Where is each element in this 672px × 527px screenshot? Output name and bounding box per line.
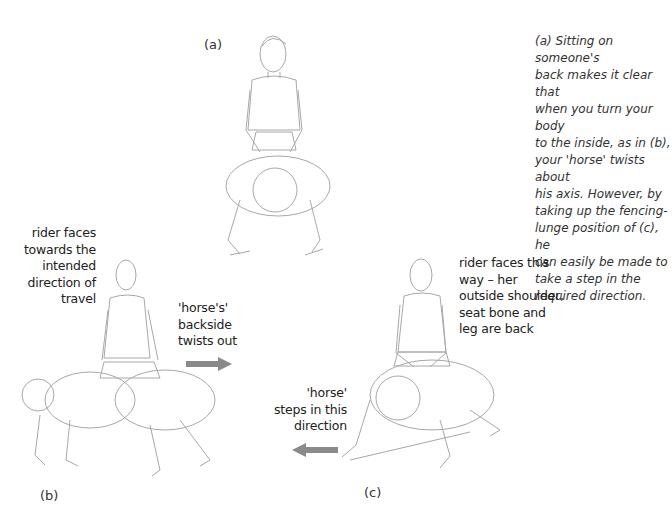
- annotation-c-rider: rider faces this way – her outside shoul…: [459, 255, 569, 338]
- annotation-line: outside shoulder,: [459, 288, 569, 305]
- annotation-line: steps in this: [230, 402, 347, 419]
- annotation-line: backside: [178, 317, 258, 334]
- arrow-right-icon: [186, 357, 236, 371]
- caption-line: lunge position of (c), he: [535, 220, 672, 254]
- annotation-c-horse: 'horse' steps in this direction: [230, 385, 347, 435]
- annotation-line: 'horse': [230, 385, 347, 402]
- caption-line: (a) Sitting on someone's: [535, 33, 672, 67]
- annotation-line: towards the: [0, 242, 96, 259]
- figure-a-sketch: [226, 36, 330, 255]
- caption-line: taking up the fencing-: [535, 203, 672, 220]
- caption-line: your 'horse' twists about: [535, 152, 672, 186]
- annotation-line: travel: [0, 291, 96, 308]
- panel-label-a: (a): [204, 37, 222, 52]
- arrow-left-icon: [290, 443, 340, 457]
- caption-line: to the inside, as in (b),: [535, 135, 672, 152]
- panel-label-c: (c): [364, 485, 381, 500]
- caption-line: his axis. However, by: [535, 186, 672, 203]
- caption-line: back makes it clear that: [535, 67, 672, 101]
- annotation-line: twists out: [178, 333, 258, 350]
- annotation-line: intended: [0, 258, 96, 275]
- annotation-b-rider: rider faces towards the intended directi…: [0, 225, 96, 308]
- annotation-line: rider faces this: [459, 255, 569, 272]
- annotation-line: direction: [230, 418, 347, 435]
- panel-label-b: (b): [40, 488, 58, 503]
- annotation-line: leg are back: [459, 321, 569, 338]
- caption-line: when you turn your body: [535, 101, 672, 135]
- annotation-line: seat bone and: [459, 305, 569, 322]
- annotation-b-horse: 'horse's' backside twists out: [178, 300, 258, 350]
- annotation-line: direction of: [0, 275, 96, 292]
- annotation-line: rider faces: [0, 225, 96, 242]
- annotation-line: way – her: [459, 272, 569, 289]
- annotation-line: 'horse's': [178, 300, 258, 317]
